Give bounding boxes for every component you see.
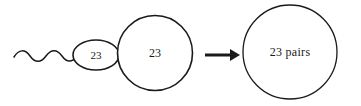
fertilization-diagram: 23 23 23 pairs bbox=[0, 0, 361, 106]
diagram-canvas: 23 23 23 pairs bbox=[0, 0, 361, 106]
arrow-icon bbox=[205, 49, 240, 61]
egg-chromosome-label: 23 bbox=[149, 46, 161, 60]
zygote-chromosome-label: 23 pairs bbox=[270, 45, 311, 59]
sperm-chromosome-label: 23 bbox=[91, 49, 103, 61]
sperm-tail-icon bbox=[14, 51, 77, 62]
